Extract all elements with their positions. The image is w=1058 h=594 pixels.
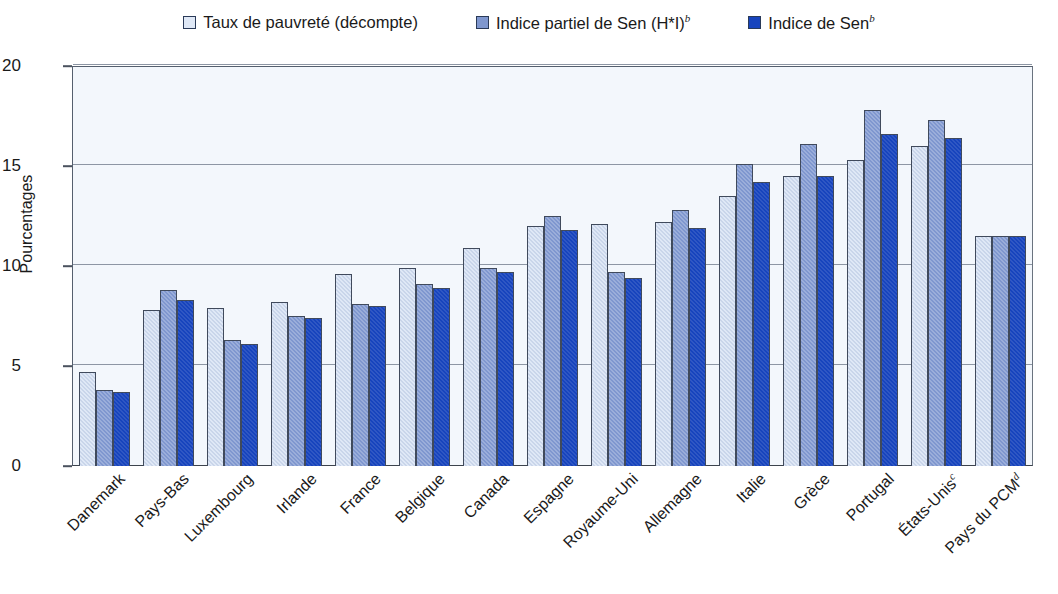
bar-group [72, 66, 136, 466]
bar[interactable] [800, 144, 817, 466]
bar-group [713, 66, 777, 466]
bar[interactable] [1009, 236, 1026, 466]
legend-label: Indice partiel de Sen (H*I)b [496, 13, 690, 31]
bar-chart-figure: Taux de pauvreté (décompte)Indice partie… [0, 0, 1058, 594]
x-tick-label: États-Unisc [949, 470, 963, 484]
legend-swatch-icon [748, 16, 761, 29]
y-tick-mark [63, 465, 72, 467]
bar-group [649, 66, 713, 466]
legend-swatch-icon [476, 16, 489, 29]
bar[interactable] [864, 110, 881, 466]
bar-group [456, 66, 520, 466]
bar[interactable] [271, 302, 288, 466]
bar[interactable] [783, 176, 800, 466]
x-tick-label: Italie [757, 470, 770, 483]
y-tick-label: 5 [0, 356, 21, 376]
bar[interactable] [945, 138, 962, 466]
bar[interactable] [497, 272, 514, 466]
bar[interactable] [911, 146, 928, 466]
gridline [73, 64, 1032, 65]
x-tick-label: Irlande [308, 470, 321, 483]
bar-group [841, 66, 905, 466]
bar[interactable] [463, 248, 480, 466]
bar[interactable] [591, 224, 608, 466]
legend-item-2[interactable]: Indice partiel de Sen (H*I)b [476, 13, 690, 31]
bar[interactable] [288, 316, 305, 466]
x-tick-label: Royaume-Uni [629, 470, 642, 483]
bar-series-container [72, 66, 1033, 466]
bar[interactable] [335, 274, 352, 466]
bar-group [264, 66, 328, 466]
bar-group [200, 66, 264, 466]
legend-label: Indice de Senb [768, 13, 874, 31]
bar[interactable] [689, 228, 706, 466]
bar[interactable] [753, 182, 770, 466]
bar[interactable] [817, 176, 834, 466]
chart-legend: Taux de pauvreté (décompte)Indice partie… [0, 8, 1058, 36]
bar[interactable] [352, 304, 369, 466]
legend-item-3[interactable]: Indice de Senb [748, 13, 874, 31]
bar-group [520, 66, 584, 466]
bar[interactable] [881, 134, 898, 466]
bar[interactable] [305, 318, 322, 466]
y-tick-label: 20 [0, 56, 21, 76]
x-tick-label: Luxembourg [244, 470, 257, 483]
bar[interactable] [177, 300, 194, 466]
bar[interactable] [736, 164, 753, 466]
bar[interactable] [399, 268, 416, 466]
bar[interactable] [561, 230, 578, 466]
bar-group [969, 66, 1033, 466]
x-tick-label: Espagne [565, 470, 578, 483]
bar[interactable] [113, 392, 130, 466]
bar[interactable] [160, 290, 177, 466]
x-tick-label: Grèce [821, 470, 834, 483]
x-tick-label: Portugal [885, 470, 898, 483]
x-tick-label: Danemark [116, 470, 129, 483]
bar[interactable] [544, 216, 561, 466]
legend-label: Taux de pauvreté (décompte) [203, 14, 418, 31]
x-tick-label: France [372, 470, 385, 483]
bar[interactable] [625, 278, 642, 466]
x-tick-label: Canada [500, 470, 513, 483]
bar[interactable] [975, 236, 992, 466]
bar[interactable] [847, 160, 864, 466]
bar[interactable] [719, 196, 736, 466]
bar[interactable] [928, 120, 945, 466]
y-tick-label: 0 [0, 456, 21, 476]
y-tick-mark [63, 65, 72, 67]
bar-group [777, 66, 841, 466]
bar[interactable] [433, 288, 450, 466]
bar[interactable] [143, 310, 160, 466]
y-tick-label: 10 [0, 256, 21, 276]
y-tick-mark [63, 365, 72, 367]
bar-group [136, 66, 200, 466]
y-tick-mark [63, 165, 72, 167]
bar-group [328, 66, 392, 466]
x-tick-label: Pays du PCMd [1013, 470, 1027, 484]
bar[interactable] [480, 268, 497, 466]
bar[interactable] [608, 272, 625, 466]
legend-swatch-icon [183, 16, 196, 29]
y-tick-mark [63, 265, 72, 267]
bar[interactable] [672, 210, 689, 466]
bar[interactable] [96, 390, 113, 466]
legend-item-1[interactable]: Taux de pauvreté (décompte) [183, 14, 418, 31]
bar[interactable] [416, 284, 433, 466]
y-tick-label: 15 [0, 156, 21, 176]
x-tick-label: Pays-Bas [180, 470, 193, 483]
bar[interactable] [79, 372, 96, 466]
bar-group [585, 66, 649, 466]
bar[interactable] [207, 308, 224, 466]
bar[interactable] [241, 344, 258, 466]
bar[interactable] [527, 226, 544, 466]
bar[interactable] [655, 222, 672, 466]
bar[interactable] [992, 236, 1009, 466]
x-axis-labels: DanemarkPays-BasLuxembourgIrlandeFranceB… [72, 470, 1033, 590]
bar-group [905, 66, 969, 466]
x-tick-label: Allemagne [693, 470, 706, 483]
bar[interactable] [369, 306, 386, 466]
bar[interactable] [224, 340, 241, 466]
x-tick-label: Belgique [436, 470, 449, 483]
bar-group [392, 66, 456, 466]
